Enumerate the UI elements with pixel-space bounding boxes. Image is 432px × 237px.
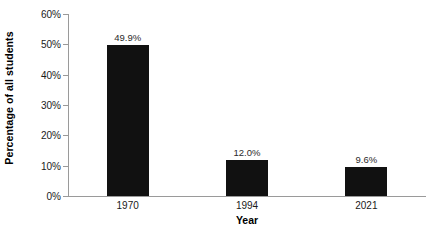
y-tick-label: 0% (17, 191, 61, 202)
y-tick-label: 20% (17, 130, 61, 141)
x-tick-label: 2021 (336, 200, 396, 211)
y-axis-title-text: Percentage of all students (3, 31, 15, 164)
bar (226, 160, 268, 196)
y-tick-label: 10% (17, 160, 61, 171)
bar-value-label: 49.9% (98, 32, 158, 43)
y-tick-mark (63, 196, 68, 197)
bar (345, 167, 387, 196)
y-tick-label: 50% (17, 39, 61, 50)
bar-chart: Percentage of all students 0%10%20%30%40… (0, 0, 432, 237)
bar-value-label: 12.0% (217, 147, 277, 158)
y-axis-title: Percentage of all students (0, 0, 18, 196)
y-tick-label: 30% (17, 100, 61, 111)
x-axis-title: Year (68, 214, 426, 226)
x-axis-line (68, 196, 426, 197)
x-tick-label: 1970 (98, 200, 158, 211)
bar (107, 45, 149, 196)
y-tick-label: 60% (17, 9, 61, 20)
bar-value-label: 9.6% (336, 154, 396, 165)
y-tick-label: 40% (17, 69, 61, 80)
plot-area: 49.9%12.0%9.6% (68, 14, 426, 196)
x-tick-label: 1994 (217, 200, 277, 211)
